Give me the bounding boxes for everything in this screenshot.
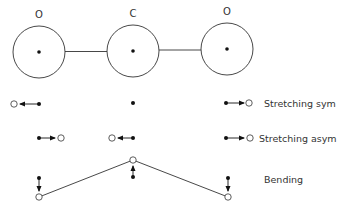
equilibrium-dot bbox=[131, 175, 135, 179]
atom-nucleus-dot bbox=[225, 47, 229, 51]
co2-vibration-diagram: O C O Stretching sym Stretching asym bbox=[0, 0, 344, 212]
displaced-position-circle bbox=[58, 135, 64, 141]
displaced-position-circle bbox=[246, 100, 252, 106]
equilibrium-dot bbox=[37, 176, 41, 180]
atom-right-oxygen: O bbox=[201, 6, 253, 75]
atom-label: C bbox=[130, 8, 137, 19]
displaced-position-circle bbox=[247, 135, 253, 141]
mode-label: Bending bbox=[264, 174, 303, 185]
atom-left-oxygen: O bbox=[13, 9, 65, 78]
equilibrium-dot bbox=[37, 136, 41, 140]
atom-label: O bbox=[223, 6, 231, 17]
equilibrium-dot bbox=[224, 136, 228, 140]
displaced-position-circle bbox=[130, 157, 136, 163]
mode-label: Stretching asym bbox=[259, 133, 337, 144]
displaced-position-circle bbox=[11, 101, 17, 107]
equilibrium-dot bbox=[224, 101, 228, 105]
atom-nucleus-dot bbox=[37, 50, 41, 54]
atom-carbon: C bbox=[107, 8, 159, 77]
displaced-position-circle bbox=[225, 194, 231, 200]
atom-label: O bbox=[35, 9, 43, 20]
equilibrium-dot bbox=[131, 136, 135, 140]
atom-nucleus-dot bbox=[131, 49, 135, 53]
mode-label: Stretching sym bbox=[264, 98, 336, 109]
equilibrium-dot bbox=[226, 176, 230, 180]
equilibrium-dot bbox=[131, 101, 135, 105]
mode-bending: Bending bbox=[36, 157, 303, 200]
mode-stretching-asym: Stretching asym bbox=[37, 133, 337, 144]
mode-stretching-sym: Stretching sym bbox=[11, 98, 336, 109]
equilibrium-dot bbox=[37, 102, 41, 106]
displaced-position-circle bbox=[36, 194, 42, 200]
displaced-position-circle bbox=[109, 135, 115, 141]
